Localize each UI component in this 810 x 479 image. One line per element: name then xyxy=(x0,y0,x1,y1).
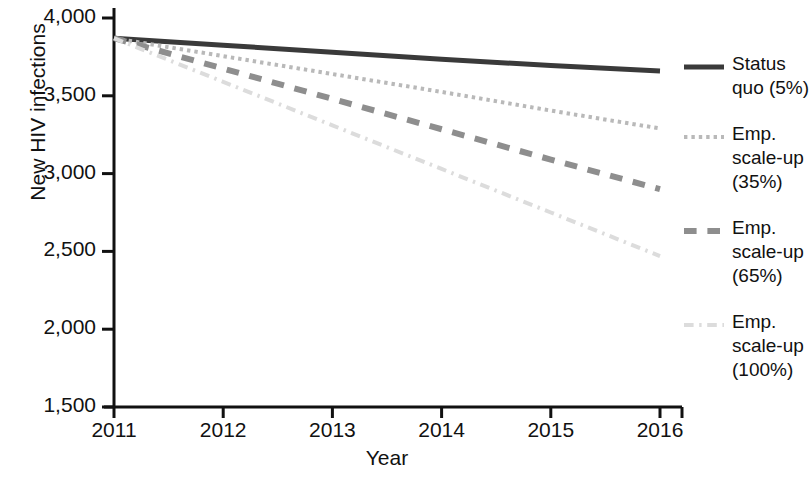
legend-swatch-icon xyxy=(684,62,724,68)
legend-swatch-icon xyxy=(684,132,724,138)
legend-label: Emp. scale-up (35%) xyxy=(732,122,810,194)
legend-swatch-icon xyxy=(684,320,724,326)
legend-label: Emp. scale-up (65%) xyxy=(732,216,810,288)
series-line-3 xyxy=(114,38,660,189)
series-line-4 xyxy=(114,38,660,256)
legend-label: Status quo (5%) xyxy=(732,52,810,100)
series-line-1 xyxy=(114,38,660,71)
legend-label: Emp. scale-up (100%) xyxy=(732,310,810,382)
legend-swatch-icon xyxy=(684,226,724,232)
